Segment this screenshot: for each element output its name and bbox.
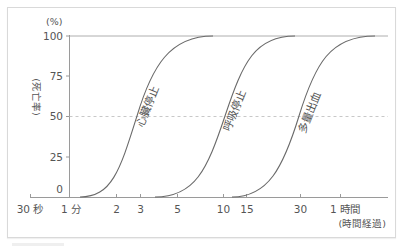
x-ticks [31,194,341,198]
label-massive-bleeding: 多量出血 [295,89,324,135]
y-tick-0: 0 [56,183,63,195]
x-tick-10: 10 [217,203,230,215]
x-axis-title: (時間経過) [339,218,386,229]
y-tick-25: 25 [50,151,63,163]
x-tick-15: 15 [240,203,253,215]
label-respiratory-arrest: 呼吸停止 [220,87,249,133]
x-tick-2: 2 [113,203,120,215]
y-tick-75: 75 [50,70,63,82]
y-axis-title: (死亡率) [31,78,42,115]
label-cardiac-arrest: 心臓停止 [133,83,162,129]
y-tick-50: 50 [50,110,63,122]
x-tick-3: 3 [137,203,144,215]
x-tick-1min: 1 分 [61,203,82,215]
x-tick-5: 5 [174,203,181,215]
y-unit-label: (%) [46,16,62,27]
x-tick-30s: 30 秒 [17,203,45,215]
y-tick-100: 100 [43,30,63,42]
x-tick-30: 30 [294,203,307,215]
y-ticks [66,36,70,157]
x-tick-1hour: 1 時間 [330,203,360,215]
chart-svg: (%) 100 75 50 25 0 (死亡率) 30 秒 1 分 2 3 5 … [0,0,407,246]
